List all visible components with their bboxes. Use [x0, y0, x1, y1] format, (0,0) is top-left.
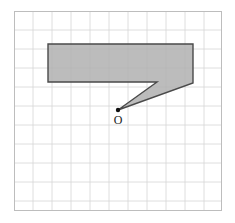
marked-point-dot [116, 108, 120, 112]
grid-container: O [14, 11, 222, 211]
point-label-o: O [114, 113, 123, 127]
clipped-header-strip: · · · · · ··· [0, 0, 235, 6]
seven-shaped-polygon [48, 44, 193, 110]
figure-canvas: · · · · · ··· [0, 0, 235, 223]
diagram-svg: O [14, 11, 222, 211]
header-text: · · · · · ··· [22, 0, 70, 4]
